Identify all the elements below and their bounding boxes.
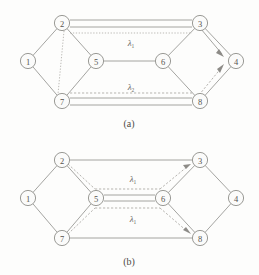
lightpath-b-upper-out [160, 166, 188, 189]
node-1[interactable]: 1 [20, 190, 35, 205]
arrow-head-b-upper [183, 164, 191, 169]
wavelength-label-lambda-1-upper: λ1 [129, 174, 137, 185]
edge-6-8 [163, 198, 200, 238]
node-label: 8 [198, 97, 202, 107]
node-6[interactable]: 6 [155, 53, 170, 68]
node-3[interactable]: 3 [192, 15, 207, 30]
node-label: 1 [26, 194, 30, 204]
network-diagram-b: 1 2 3 4 5 6 7 8 λ1 λ [0, 137, 259, 275]
arrow-head-b-lower [183, 227, 191, 234]
node-7[interactable]: 7 [54, 93, 69, 108]
node-6[interactable]: 6 [155, 190, 170, 205]
node-4[interactable]: 4 [228, 190, 243, 205]
node-label: 7 [60, 234, 64, 244]
node-label: 7 [60, 97, 64, 107]
node-8[interactable]: 8 [192, 93, 207, 108]
node-label: 5 [94, 194, 98, 204]
node-label: 6 [161, 194, 165, 204]
node-label: 5 [94, 57, 98, 67]
node-label: 3 [198, 156, 202, 166]
node-label: 2 [60, 19, 64, 29]
node-5[interactable]: 5 [88, 53, 103, 68]
node-1[interactable]: 1 [20, 53, 35, 68]
node-5[interactable]: 5 [88, 190, 103, 205]
node-4[interactable]: 4 [228, 53, 243, 68]
arrow-head-a-upper [216, 49, 224, 57]
network-diagram-a: 1 2 3 4 5 6 7 8 λ1 λ [0, 0, 259, 137]
caption-a: (a) [123, 118, 134, 130]
node-label: 1 [26, 57, 30, 67]
lightpath-b-lower-in [68, 208, 95, 234]
node-2[interactable]: 2 [54, 152, 69, 167]
edge-6-8 [163, 61, 200, 101]
figure-root: 1 2 3 4 5 6 7 8 λ1 λ [0, 0, 259, 275]
node-3[interactable]: 3 [192, 152, 207, 167]
node-8[interactable]: 8 [192, 230, 207, 245]
node-7[interactable]: 7 [54, 230, 69, 245]
lightpath-b-upper-in [68, 164, 95, 189]
wavelength-label-lambda-1: λ1 [127, 38, 135, 49]
node-label: 2 [60, 156, 64, 166]
wavelength-label-lambda-2: λ2 [127, 82, 135, 93]
edge-8-4 [200, 198, 236, 238]
node-label: 6 [161, 57, 165, 67]
node-label: 3 [198, 19, 202, 29]
edge-8-4 [200, 61, 236, 101]
caption-b: (b) [123, 256, 135, 268]
lightpath-a-diagonal-2-7 [58, 31, 64, 94]
node-label: 8 [198, 234, 202, 244]
node-2[interactable]: 2 [54, 15, 69, 30]
wavelength-label-lambda-1-lower: λ1 [129, 214, 137, 225]
